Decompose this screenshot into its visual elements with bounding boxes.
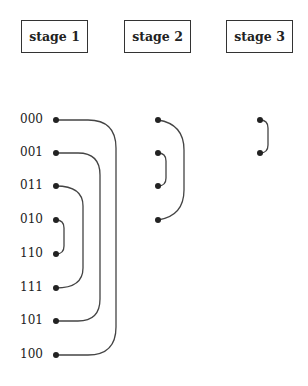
stage-2-connections xyxy=(158,120,184,220)
connection-diagram xyxy=(0,0,308,386)
stage-3-connections xyxy=(260,120,268,153)
stage-1-connections xyxy=(56,120,116,355)
